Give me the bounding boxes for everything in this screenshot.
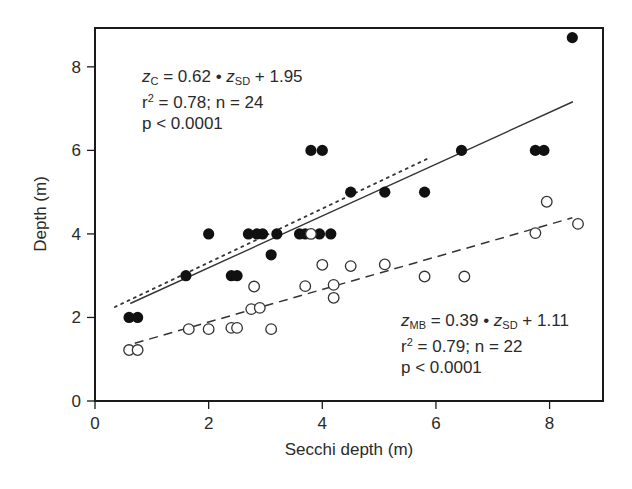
filled-data-point (257, 228, 268, 239)
filled-data-point (203, 228, 214, 239)
open-data-point (317, 260, 328, 271)
r-squared-zmb: r2 = 0.79; n = 22 (401, 336, 569, 357)
x-tick-label: 8 (545, 414, 554, 433)
open-data-point (300, 281, 311, 292)
scatter-chart: 02468 02468 Secchi depth (m) Depth (m) (0, 0, 632, 489)
open-data-point (541, 196, 552, 207)
filled-data-point (231, 270, 242, 281)
y-tick-label: 2 (72, 308, 81, 327)
open-data-point (254, 303, 265, 314)
x-tick-label: 2 (204, 414, 213, 433)
dotted-fit-line (115, 159, 428, 307)
filled-data-point (345, 187, 356, 198)
filled-data-point (317, 145, 328, 156)
equation-zc: zC = 0.62 • zSD + 1.95 (142, 66, 303, 92)
open-data-point (232, 323, 243, 334)
open-data-point (379, 259, 390, 270)
open-data-point (132, 345, 143, 356)
p-value-zmb: p < 0.0001 (401, 357, 569, 378)
regression-lines (115, 102, 573, 343)
filled-data-point (379, 187, 390, 198)
open-data-point (573, 219, 584, 230)
open-data-point (183, 324, 194, 335)
open-data-point (459, 271, 470, 282)
open-data-point (530, 228, 541, 239)
filled-data-point (271, 228, 282, 239)
y-tick-label: 4 (72, 225, 81, 244)
filled-data-point (266, 249, 277, 260)
open-data-point (266, 324, 277, 335)
p-value-zc: p < 0.0001 (142, 113, 303, 134)
annotation-zmb: zMB = 0.39 • zSD + 1.11 r2 = 0.79; n = 2… (401, 310, 569, 378)
filled-data-point (538, 145, 549, 156)
open-data-point (345, 261, 356, 272)
x-tick-label: 4 (318, 414, 327, 433)
open-data-point (249, 281, 260, 292)
x-tick-label: 6 (431, 414, 440, 433)
x-axis: 02468 (90, 401, 554, 433)
x-axis-title: Secchi depth (m) (285, 440, 414, 459)
filled-data-point (456, 145, 467, 156)
open-data-point (328, 293, 339, 304)
open-data-point (203, 324, 214, 335)
y-tick-label: 6 (72, 141, 81, 160)
filled-data-point (325, 228, 336, 239)
filled-data-point (419, 187, 430, 198)
annotation-zc: zC = 0.62 • zSD + 1.95 r2 = 0.78; n = 24… (142, 66, 303, 134)
y-axis: 02468 (72, 58, 95, 411)
filled-data-point (180, 270, 191, 281)
r-squared-zc: r2 = 0.78; n = 24 (142, 92, 303, 113)
filled-data-point (132, 312, 143, 323)
open-data-point (328, 280, 339, 291)
equation-zmb: zMB = 0.39 • zSD + 1.11 (401, 310, 569, 336)
open-data-point (419, 271, 430, 282)
y-axis-title: Depth (m) (31, 176, 50, 252)
filled-data-point (305, 145, 316, 156)
open-data-point (306, 229, 317, 240)
y-tick-label: 0 (72, 392, 81, 411)
x-tick-label: 0 (90, 414, 99, 433)
y-tick-label: 8 (72, 58, 81, 77)
filled-data-point (567, 32, 578, 43)
